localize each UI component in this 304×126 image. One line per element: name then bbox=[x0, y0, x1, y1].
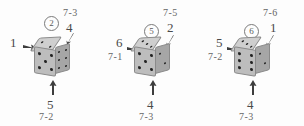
die-3-face-front bbox=[234, 46, 256, 76]
die-badge-1: 2 bbox=[44, 16, 59, 31]
die-2-left-expr: 7-1 bbox=[108, 52, 123, 62]
die-3-topright-value: 1 bbox=[270, 21, 277, 34]
die-1-bottom-value: 5 bbox=[47, 98, 54, 111]
die-1-topright-expr: 7-3 bbox=[63, 8, 78, 18]
arrow-up-icon-3 bbox=[248, 80, 258, 96]
die-1-left-value: 1 bbox=[10, 36, 17, 49]
die-2-bottom-expr: 7-3 bbox=[139, 112, 154, 122]
die-1-face-right bbox=[55, 43, 70, 74]
die-3-bottom-expr: 7-3 bbox=[239, 112, 254, 122]
die-2-left-value: 6 bbox=[116, 36, 123, 49]
die-2-face-right bbox=[155, 43, 170, 74]
die-2-face-front bbox=[134, 46, 156, 76]
die-2-bottom-value: 4 bbox=[147, 98, 154, 111]
die-3-topright-expr: 7-6 bbox=[263, 8, 278, 18]
die-2-topright-expr: 7-5 bbox=[163, 8, 178, 18]
die-3-left-value: 5 bbox=[216, 36, 223, 49]
die-2-topright-value: 2 bbox=[167, 21, 174, 34]
die-group-2: 5 6 7-1 7-5 2 bbox=[100, 0, 204, 126]
die-group-3: 6 5 7-2 7-6 1 bbox=[200, 0, 304, 126]
die-1-face-front bbox=[34, 46, 56, 76]
die-2 bbox=[132, 36, 174, 78]
die-3-left-expr: 7-2 bbox=[208, 52, 223, 62]
die-1-bottom-expr: 7-2 bbox=[39, 112, 54, 122]
die-1 bbox=[32, 36, 74, 78]
arrow-up-icon-1 bbox=[48, 80, 58, 96]
die-group-1: 2 1 7-3 4 bbox=[0, 0, 104, 126]
die-3 bbox=[232, 36, 274, 78]
die-3-bottom-value: 4 bbox=[247, 98, 254, 111]
die-3-face-right bbox=[255, 43, 270, 74]
dice-figure: 2 1 7-3 4 bbox=[0, 0, 304, 126]
arrow-up-icon-2 bbox=[148, 80, 158, 96]
